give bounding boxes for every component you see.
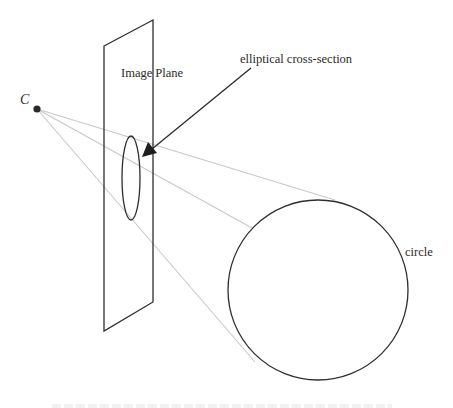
cross-section-label: elliptical cross-section bbox=[240, 52, 353, 66]
annotation-arrow bbox=[142, 68, 251, 157]
ray-top bbox=[37, 109, 335, 200]
arrowhead-icon bbox=[142, 142, 157, 157]
perspective-projection-diagram: C Image Plane elliptical cross-section c… bbox=[0, 0, 453, 408]
elliptical-cross-section bbox=[122, 136, 140, 220]
circle-shape bbox=[228, 200, 408, 380]
ray-bottom bbox=[37, 109, 255, 362]
ray-middle bbox=[37, 109, 252, 228]
image-plane-label: Image Plane bbox=[121, 66, 184, 80]
cropped-caption bbox=[52, 404, 392, 408]
center-of-projection-point bbox=[33, 105, 40, 112]
projection-rays bbox=[37, 109, 335, 362]
circle-label: circle bbox=[405, 245, 433, 259]
center-point-label: C bbox=[20, 92, 30, 107]
